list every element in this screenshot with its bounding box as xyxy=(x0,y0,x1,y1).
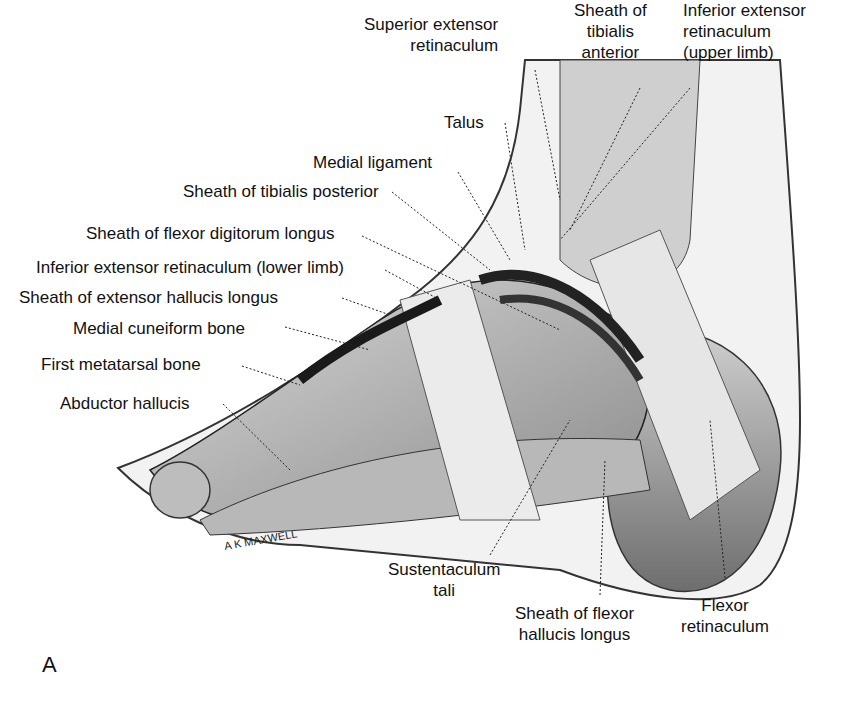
label-flexor-retinaculum: Flexor retinaculum xyxy=(681,595,769,637)
great-toe xyxy=(150,462,210,518)
label-sheath-extensor-hallucis-longus: Sheath of extensor hallucis longus xyxy=(19,287,278,308)
label-first-metatarsal-bone: First metatarsal bone xyxy=(41,354,201,375)
label-sustentaculum-tali: Sustentaculum tali xyxy=(388,559,500,601)
label-sheath-flexor-digitorum-longus: Sheath of flexor digitorum longus xyxy=(86,223,335,244)
label-medial-cuneiform-bone: Medial cuneiform bone xyxy=(73,318,245,339)
label-inferior-extensor-retinaculum-lower: Inferior extensor retinaculum (lower lim… xyxy=(36,257,344,278)
panel-letter: A xyxy=(42,652,57,678)
label-inferior-extensor-retinaculum-upper: Inferior extensor retinaculum (upper lim… xyxy=(683,0,806,63)
label-superior-extensor-retinaculum: Superior extensor retinaculum xyxy=(364,14,498,56)
label-sheath-tibialis-anterior: Sheath of tibialis anterior xyxy=(574,0,647,63)
label-sheath-flexor-hallucis-longus: Sheath of flexor hallucis longus xyxy=(515,603,634,645)
label-sheath-tibialis-posterior: Sheath of tibialis posterior xyxy=(183,181,379,202)
label-medial-ligament: Medial ligament xyxy=(313,152,432,173)
label-talus: Talus xyxy=(444,112,484,133)
label-abductor-hallucis: Abductor hallucis xyxy=(60,393,189,414)
